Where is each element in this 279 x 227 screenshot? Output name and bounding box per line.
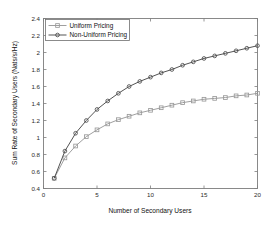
x-tick-label: 10 <box>147 191 154 198</box>
y-tick-label: 1.4 <box>31 100 40 107</box>
y-tick-label: 1.6 <box>31 83 40 90</box>
series-line <box>54 46 257 179</box>
y-tick-label: 0.4 <box>31 185 40 192</box>
chart-legend: Uniform PricingNon-Uniform Pricing <box>46 20 130 41</box>
series-non-uniform-pricing <box>52 44 259 180</box>
y-tick-label: 1.8 <box>31 66 40 73</box>
y-tick-label: 1 <box>37 134 41 141</box>
y-tick-label: 2 <box>37 49 41 56</box>
x-tick-label: 5 <box>95 191 99 198</box>
x-axis-label: Number of Secondary Users <box>108 207 192 215</box>
y-tick-label: 1.2 <box>31 117 40 124</box>
legend-label: Non-Uniform Pricing <box>70 31 128 39</box>
y-tick-label: 2.2 <box>31 32 40 39</box>
legend-label: Uniform Pricing <box>70 22 114 30</box>
y-tick-label: 2.4 <box>31 15 40 22</box>
figure-container: 05101520 0.40.60.811.21.41.61.822.22.4 U… <box>0 0 279 227</box>
axes-frame <box>44 19 258 189</box>
y-tick-label: 0.8 <box>31 151 40 158</box>
x-tick-label: 0 <box>42 191 46 198</box>
x-tick-label: 15 <box>201 191 208 198</box>
y-axis-ticks: 0.40.60.811.21.41.61.822.22.4 <box>31 15 257 192</box>
y-axis-label: Sum Rate of Secondary Users (Nats/s/Hz) <box>11 41 19 165</box>
data-series-group <box>52 44 259 180</box>
y-tick-label: 0.6 <box>31 168 40 175</box>
chart-canvas: 05101520 0.40.60.811.21.41.61.822.22.4 U… <box>0 0 279 227</box>
series-uniform-pricing <box>52 91 259 180</box>
x-tick-label: 20 <box>254 191 261 198</box>
